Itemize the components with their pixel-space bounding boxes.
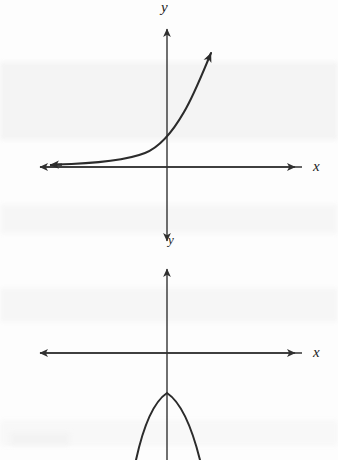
- exponential-curve: [50, 53, 211, 165]
- figure-canvas: y x y x: [0, 0, 338, 460]
- y-axis-label-top: y: [161, 0, 168, 15]
- parabola-curve: [136, 393, 200, 460]
- x-axis-label-top: x: [313, 159, 320, 174]
- graph-bottom-axes: [40, 269, 302, 460]
- y-axis-label-bottom: y: [168, 233, 174, 246]
- graph-top-axes: [40, 29, 302, 241]
- graphs-drawing: [0, 0, 338, 460]
- x-axis-label-bottom: x: [313, 345, 320, 360]
